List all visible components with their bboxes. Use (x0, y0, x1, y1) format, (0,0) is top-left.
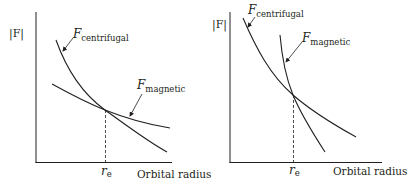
magnetic-label: Fmagnetic (136, 78, 186, 94)
magnetic-arrow (130, 94, 142, 116)
centrifugal-curve (56, 40, 167, 152)
centrifugal-label: Fcentrifugal (72, 27, 129, 43)
magnetic-arrow (286, 42, 302, 62)
magnetic-curve (280, 35, 325, 152)
equilibrium-radius-label: re (101, 164, 112, 179)
centrifugal-arrow (63, 38, 73, 51)
equilibrium-radius-label: re (289, 163, 300, 178)
centrifugal-curve (243, 18, 356, 137)
left-panel: |F| Fcentrifugal Fmagnetic re Orbital ra… (9, 12, 211, 180)
x-axis-label: Orbital radius (333, 165, 407, 177)
x-axis-label: Orbital radius (137, 168, 211, 180)
right-panel: |F| Fcentrifugal Fmagnetic re Orbital ra… (212, 3, 407, 178)
force-diagrams: |F| Fcentrifugal Fmagnetic re Orbital ra… (0, 0, 412, 184)
y-axis-label: |F| (9, 27, 24, 41)
centrifugal-arrow (248, 17, 255, 27)
magnetic-label: Fmagnetic (301, 31, 351, 47)
y-axis-label: |F| (212, 18, 227, 32)
centrifugal-label: Fcentrifugal (247, 3, 304, 19)
